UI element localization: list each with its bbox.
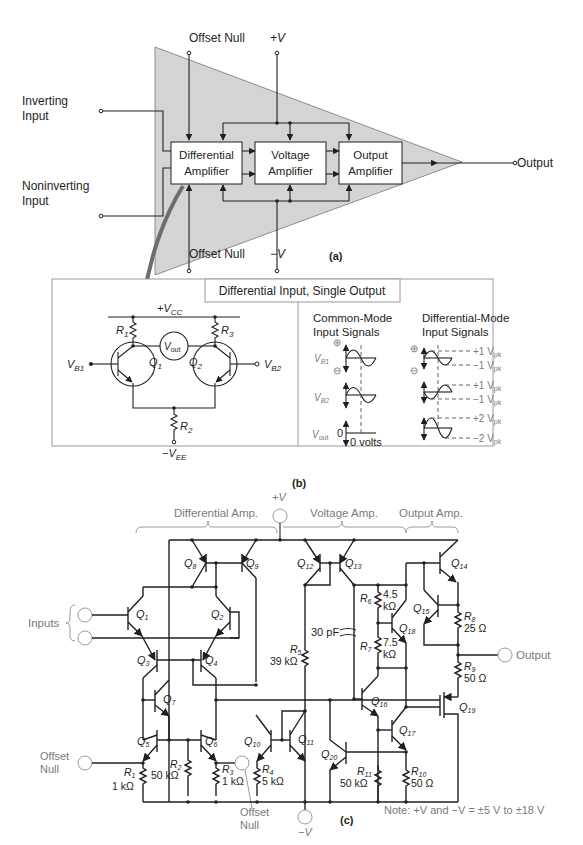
output-terminal: [513, 161, 517, 165]
noninverting-input-terminal-c: [78, 631, 92, 645]
section-differential-amp: Differential Amp.: [174, 507, 258, 519]
svg-text:⊕: ⊕: [333, 337, 341, 348]
noninverting-input-terminal: [99, 214, 103, 218]
svg-text:0 volts: 0 volts: [350, 436, 382, 448]
svg-text:Q18: Q18: [399, 622, 415, 635]
svg-text:30 pF: 30 pF: [311, 626, 339, 638]
section-voltage-amp: Voltage Amp.: [310, 507, 378, 519]
svg-text:Q1: Q1: [136, 608, 149, 621]
inverting-input-terminal: [99, 109, 103, 113]
plus-v-label: +V: [270, 31, 286, 45]
inverting-input-terminal-c: [78, 608, 92, 622]
svg-text:1 kΩ: 1 kΩ: [222, 775, 244, 787]
op-amp-figure: Offset Null +V Inverting Input Noninvert…: [0, 0, 583, 845]
svg-text:Differential-Mode: Differential-Mode: [422, 312, 509, 324]
svg-text:Q14: Q14: [451, 557, 467, 570]
svg-text:R7: R7: [360, 640, 373, 653]
svg-text:Q7: Q7: [163, 693, 177, 706]
figure-c-caption: (c): [340, 814, 354, 826]
svg-text:0: 0: [337, 427, 343, 439]
svg-text:Q4: Q4: [205, 654, 218, 667]
svg-text:Q11: Q11: [298, 733, 314, 746]
figure-a-caption: (a): [329, 250, 343, 262]
svg-text:Q10: Q10: [244, 735, 260, 748]
svg-text:Input Signals: Input Signals: [313, 326, 380, 338]
svg-text:5 kΩ: 5 kΩ: [262, 775, 284, 787]
minus-v-label: −V: [270, 247, 286, 261]
svg-text:Output: Output: [353, 149, 388, 161]
svg-text:Amplifier: Amplifier: [268, 165, 313, 177]
svg-text:Q19: Q19: [459, 701, 475, 714]
inverting-input-label-1: Inverting: [22, 94, 68, 108]
svg-text:Differential: Differential: [179, 149, 234, 161]
svg-text:Voltage: Voltage: [271, 149, 309, 161]
svg-text:Inputs: Inputs: [28, 617, 60, 629]
svg-text:Q16: Q16: [371, 695, 387, 708]
noninverting-input-label-2: Input: [22, 194, 49, 208]
svg-text:Q2: Q2: [211, 608, 224, 621]
svg-text:Offset: Offset: [240, 806, 269, 818]
svg-text:⊕: ⊕: [410, 343, 418, 354]
supply-note: Note: +V and −V = ±5 V to ±18 V: [384, 804, 545, 816]
svg-text:+V: +V: [272, 491, 287, 503]
svg-text:25 Ω: 25 Ω: [464, 622, 487, 634]
offset-null-bottom-label: Offset Null: [189, 247, 245, 261]
svg-text:Q3: Q3: [137, 654, 150, 667]
svg-text:⊖: ⊖: [410, 365, 418, 376]
figure-a-block-diagram: Offset Null +V Inverting Input Noninvert…: [22, 31, 554, 308]
offset-null-top-label: Offset Null: [189, 31, 245, 45]
svg-text:Common-Mode: Common-Mode: [313, 312, 392, 324]
svg-text:R6: R6: [360, 592, 372, 605]
svg-text:−VEE: −VEE: [162, 447, 187, 462]
svg-text:Q17: Q17: [399, 724, 416, 737]
svg-text:Amplifier: Amplifier: [348, 165, 393, 177]
svg-text:Q9: Q9: [246, 557, 259, 570]
output-label: Output: [517, 156, 554, 170]
svg-text:R1: R1: [124, 766, 136, 779]
svg-text:Amplifier: Amplifier: [184, 165, 229, 177]
figure-c-741-schematic: Differential Amp. Voltage Amp. Output Am…: [28, 491, 551, 838]
svg-text:50 kΩ: 50 kΩ: [151, 769, 179, 781]
inverting-input-label-2: Input: [22, 109, 49, 123]
svg-text:−V: −V: [298, 826, 313, 838]
svg-text:7.5: 7.5: [383, 636, 398, 648]
svg-text:Output: Output: [516, 649, 551, 661]
svg-text:kΩ: kΩ: [383, 648, 396, 660]
svg-text:Null: Null: [40, 763, 59, 775]
svg-text:1 kΩ: 1 kΩ: [112, 780, 134, 792]
noninverting-input-label-1: Noninverting: [22, 179, 89, 193]
svg-text:50 kΩ: 50 kΩ: [340, 777, 368, 789]
svg-text:39 kΩ: 39 kΩ: [270, 655, 298, 667]
minus-v-terminal: [298, 810, 312, 824]
svg-text:50 Ω: 50 Ω: [464, 672, 487, 684]
figure-b-caption: (b): [292, 477, 306, 489]
offset-null-bottom-terminal: [235, 756, 249, 770]
offset-null-left-terminal: [78, 756, 92, 770]
svg-text:50 Ω: 50 Ω: [411, 777, 434, 789]
svg-text:Input Signals: Input Signals: [422, 326, 489, 338]
plus-v-terminal: [273, 509, 287, 523]
output-terminal-c: [498, 648, 512, 662]
figure-b-title: Differential Input, Single Output: [219, 284, 386, 298]
svg-text:4.5: 4.5: [383, 588, 398, 600]
svg-text:Q12: Q12: [297, 557, 313, 570]
svg-text:Offset: Offset: [40, 750, 69, 762]
figure-b-differential-pair: Differential Input, Single Output +VCC R…: [52, 279, 509, 489]
svg-text:Q15: Q15: [413, 602, 429, 615]
svg-text:⊖: ⊖: [333, 365, 341, 376]
svg-text:Q20: Q20: [321, 748, 337, 761]
svg-text:Q13: Q13: [345, 557, 361, 570]
svg-text:kΩ: kΩ: [383, 600, 396, 612]
svg-text:Q8: Q8: [184, 557, 197, 570]
svg-text:Null: Null: [240, 819, 259, 831]
section-output-amp: Output Amp.: [399, 507, 463, 519]
svg-text:Q5: Q5: [137, 735, 150, 748]
